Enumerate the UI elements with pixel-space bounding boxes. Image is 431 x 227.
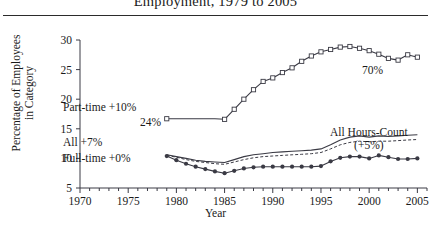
- series-marker-part-time: [261, 79, 265, 83]
- series-marker-full-time: [309, 165, 313, 169]
- series-marker-part-time: [242, 97, 246, 101]
- series-marker-part-time: [367, 49, 371, 53]
- x-tick-label: 1980: [165, 195, 188, 207]
- annotation-hours-count-line2: (+5%): [330, 139, 408, 152]
- series-marker-part-time: [165, 117, 169, 121]
- series-marker-part-time: [290, 66, 294, 70]
- series-marker-full-time: [357, 155, 361, 159]
- series-marker-part-time: [406, 53, 410, 57]
- series-marker-full-time: [184, 162, 188, 166]
- series-marker-full-time: [165, 154, 169, 158]
- series-marker-full-time: [367, 156, 371, 160]
- x-tick-label: 1985: [213, 195, 236, 207]
- chart-figure: Employment, 1979 to 2005 Percentage of E…: [0, 0, 431, 227]
- series-marker-full-time: [174, 158, 178, 162]
- series-marker-part-time: [222, 117, 226, 121]
- series-marker-part-time: [348, 44, 352, 48]
- x-tick-label: 2005: [406, 195, 429, 207]
- series-marker-full-time: [232, 169, 236, 173]
- x-tick-label: 1990: [261, 195, 284, 207]
- series-marker-full-time: [348, 155, 352, 159]
- series-marker-full-time: [251, 165, 255, 169]
- series-marker-full-time: [280, 165, 284, 169]
- y-tick-label: 15: [61, 123, 73, 135]
- x-tick-label: 1970: [69, 195, 92, 207]
- series-marker-part-time: [280, 70, 284, 74]
- series-marker-full-time: [290, 165, 294, 169]
- series-marker-part-time: [309, 54, 313, 58]
- series-marker-full-time: [415, 156, 419, 160]
- annotation-part-time-end: 70%: [362, 64, 383, 77]
- series-marker-full-time: [406, 157, 410, 161]
- series-marker-full-time: [329, 159, 333, 163]
- series-line-part-time: [167, 47, 418, 120]
- series-marker-full-time: [242, 166, 246, 170]
- y-tick-label: 25: [61, 64, 73, 76]
- y-tick-label: 5: [66, 182, 72, 194]
- series-marker-full-time: [194, 165, 198, 169]
- series-marker-full-time: [300, 165, 304, 169]
- series-marker-part-time: [377, 52, 381, 56]
- annotation-hours-count-line1: All Hours-Count: [330, 126, 408, 139]
- annotation-part-time: Part-time +10%: [63, 101, 136, 114]
- series-marker-full-time: [386, 155, 390, 159]
- series-marker-part-time: [319, 50, 323, 54]
- x-tick-label: 2000: [358, 195, 381, 207]
- series-marker-part-time: [338, 45, 342, 49]
- series-marker-full-time: [271, 165, 275, 169]
- y-tick-label: 30: [61, 34, 73, 46]
- annotation-full-time: Full-time +0%: [63, 152, 131, 165]
- annotation-hours-count: All Hours-Count (+5%): [330, 126, 408, 152]
- series-marker-full-time: [396, 157, 400, 161]
- series-marker-part-time: [396, 58, 400, 62]
- series-marker-part-time: [386, 56, 390, 60]
- series-marker-part-time: [357, 46, 361, 50]
- series-marker-full-time: [377, 153, 381, 157]
- series-marker-full-time: [203, 167, 207, 171]
- series-marker-full-time: [319, 164, 323, 168]
- x-tick-label: 1975: [117, 195, 140, 207]
- series-marker-part-time: [415, 55, 419, 59]
- series-marker-full-time: [261, 165, 265, 169]
- annotation-part-time-value: 24%: [140, 116, 161, 129]
- series-marker-part-time: [251, 88, 255, 92]
- series-marker-full-time: [222, 171, 226, 175]
- series-marker-part-time: [271, 76, 275, 80]
- series-marker-part-time: [232, 107, 236, 111]
- series-marker-part-time: [300, 59, 304, 63]
- annotation-all: All +7%: [63, 136, 102, 149]
- series-marker-part-time: [329, 47, 333, 51]
- series-marker-full-time: [213, 169, 217, 173]
- series-marker-full-time: [338, 156, 342, 160]
- x-tick-label: 1995: [309, 195, 332, 207]
